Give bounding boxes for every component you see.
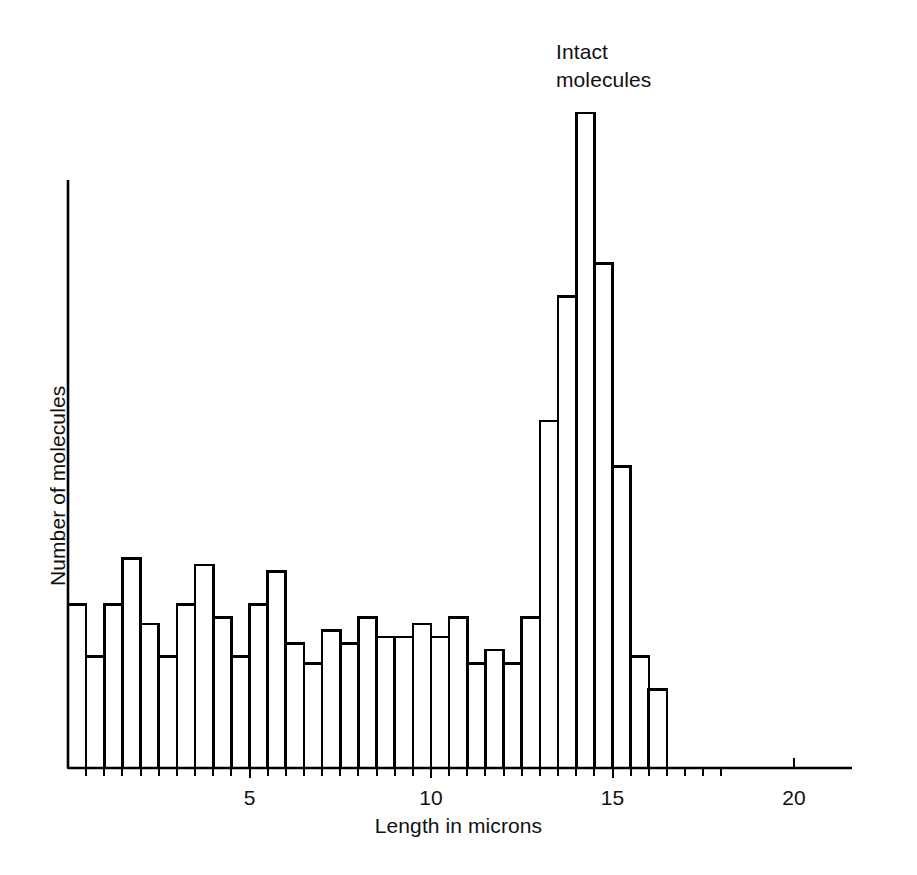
- histogram-figure: Intactmolecules Length in microns Number…: [0, 0, 917, 875]
- histogram-bar: [504, 663, 522, 768]
- histogram-bar: [213, 617, 231, 768]
- histogram-bar: [522, 617, 540, 768]
- histogram-bar: [250, 604, 268, 768]
- intact-annotation-line-1: Intact: [556, 40, 608, 63]
- histogram-bar: [104, 604, 122, 768]
- histogram-bar: [177, 604, 195, 768]
- histogram-bar: [340, 644, 358, 768]
- histogram-bar: [304, 663, 322, 768]
- y-axis-title: Number of molecules: [44, 341, 72, 631]
- histogram-bar: [268, 572, 286, 769]
- histogram-bar: [377, 637, 395, 768]
- histogram-bar: [358, 617, 376, 768]
- x-tick-label: 15: [583, 786, 643, 810]
- histogram-bar: [395, 637, 413, 768]
- histogram-bar: [613, 467, 631, 768]
- intact-annotation-line-2: molecules: [556, 68, 651, 91]
- x-tick-label: 20: [764, 786, 824, 810]
- histogram-bar: [649, 689, 667, 768]
- intact-molecules-annotation: Intactmolecules: [556, 38, 651, 93]
- x-axis-title: Length in microns: [0, 812, 917, 840]
- histogram-bar: [413, 624, 431, 768]
- histogram-bar: [286, 644, 304, 768]
- histogram-bar: [576, 113, 594, 768]
- histogram-bars: [68, 113, 667, 768]
- histogram-bar: [631, 657, 649, 768]
- x-tick-label: 10: [401, 786, 461, 810]
- histogram-bar: [122, 558, 140, 768]
- histogram-bar: [449, 617, 467, 768]
- histogram-bar: [485, 650, 503, 768]
- histogram-bar: [431, 637, 449, 768]
- histogram-bar: [594, 264, 612, 768]
- histogram-bar: [322, 630, 340, 768]
- histogram-bar: [159, 657, 177, 768]
- histogram-bar: [558, 296, 576, 768]
- histogram-bar: [86, 657, 104, 768]
- histogram-bar: [195, 565, 213, 768]
- histogram-bar: [141, 624, 159, 768]
- histogram-bar: [467, 663, 485, 768]
- histogram-bar: [231, 657, 249, 768]
- x-tick-label: 5: [220, 786, 280, 810]
- histogram-bar: [540, 421, 558, 768]
- histogram-plot: [0, 0, 917, 875]
